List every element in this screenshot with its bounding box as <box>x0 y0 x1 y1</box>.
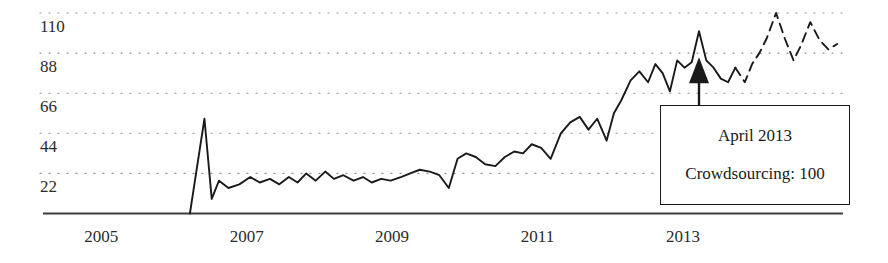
y-axis-tick-label: 66 <box>40 98 57 115</box>
series-line-forecast <box>735 13 837 82</box>
x-axis-tick-label: 2007 <box>230 228 264 245</box>
x-axis-tick-label: 2013 <box>666 228 700 245</box>
x-axis-tick-label: 2005 <box>84 228 118 245</box>
crowdsourcing-trend-chart: 11088664422 20052007200920112013 April 2… <box>0 0 888 263</box>
annotation-date-label: April 2013 <box>718 126 792 146</box>
y-axis-tick-label: 110 <box>40 18 65 35</box>
y-axis-tick-label: 44 <box>40 138 57 155</box>
x-axis-tick-label: 2011 <box>521 228 554 245</box>
series-line-observed <box>190 31 735 213</box>
annotation-arrow <box>689 57 709 105</box>
x-axis-tick-label: 2009 <box>375 228 409 245</box>
y-axis-tick-label: 22 <box>40 178 57 195</box>
annotation-callout-box: April 2013 Crowdsourcing: 100 <box>660 105 850 205</box>
y-axis-tick-label: 88 <box>40 58 57 75</box>
annotation-value-label: Crowdsourcing: 100 <box>685 164 824 184</box>
